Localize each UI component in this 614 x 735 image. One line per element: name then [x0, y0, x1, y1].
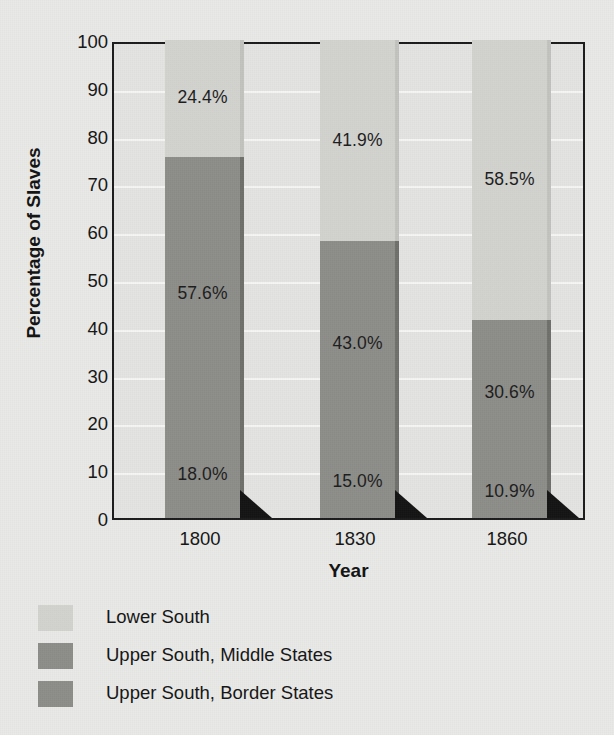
bar-segment-label: 15.0% — [320, 471, 395, 492]
legend-label: Upper South, Border States — [106, 682, 333, 704]
bar-segment: 41.9% — [320, 40, 395, 240]
y-axis-tick-label: 80 — [64, 127, 108, 149]
bar-segment: 43.0% — [320, 241, 395, 447]
bar-segment: 10.9% — [472, 466, 547, 518]
plot-area: 18.0%57.6%24.4%15.0%43.0%41.9%10.9%30.6%… — [114, 44, 583, 518]
plot-frame: 18.0%57.6%24.4%15.0%43.0%41.9%10.9%30.6%… — [112, 42, 585, 520]
bar-side-edge — [395, 241, 399, 447]
y-axis-tick-label: 10 — [64, 461, 108, 483]
bar-side-edge — [395, 40, 399, 240]
y-axis-tick-label: 30 — [64, 366, 108, 388]
y-axis-tick-label: 50 — [64, 270, 108, 292]
bar-side-edge — [547, 40, 551, 320]
bar-1860: 10.9%30.6%58.5% — [472, 40, 547, 518]
bar-base-shadow — [240, 490, 272, 518]
bar-segment-label: 18.0% — [165, 464, 240, 485]
chart-figure: 0102030405060708090100 Percentage of Sla… — [0, 0, 614, 735]
bar-segment: 30.6% — [472, 320, 547, 466]
x-axis-tick-label: 1860 — [432, 528, 582, 550]
bar-segment: 57.6% — [165, 157, 240, 432]
y-axis-title: Percentage of Slaves — [23, 133, 45, 353]
bar-segment-label: 58.5% — [472, 169, 547, 190]
legend-label: Lower South — [106, 606, 210, 628]
y-axis-tick-label: 60 — [64, 222, 108, 244]
y-axis-tick-label: 20 — [64, 413, 108, 435]
bar-segment-label: 30.6% — [472, 382, 547, 403]
bar-segment-label: 43.0% — [320, 333, 395, 354]
legend-swatch — [38, 681, 73, 707]
bar-segment-label: 24.4% — [165, 87, 240, 108]
bar-segment: 58.5% — [472, 40, 547, 320]
y-axis-tick-label: 40 — [64, 318, 108, 340]
bar-side-edge — [240, 40, 244, 157]
bar-1800: 18.0%57.6%24.4% — [165, 40, 240, 518]
bar-segment: 24.4% — [165, 40, 240, 157]
y-axis-tick-label: 0 — [64, 509, 108, 531]
bar-side-edge — [547, 320, 551, 466]
bar-1830: 15.0%43.0%41.9% — [320, 40, 395, 518]
bar-base-shadow — [547, 490, 579, 518]
bar-base-shadow — [395, 490, 427, 518]
bar-side-edge — [240, 157, 244, 432]
x-axis-title: Year — [112, 560, 585, 582]
y-axis-ticks: 0102030405060708090100 — [58, 42, 108, 520]
legend-swatch — [38, 643, 73, 669]
legend-label: Upper South, Middle States — [106, 644, 332, 666]
y-axis-tick-label: 70 — [64, 174, 108, 196]
y-axis-tick-label: 100 — [64, 31, 108, 53]
legend-swatch — [38, 605, 73, 631]
bar-segment: 15.0% — [320, 446, 395, 518]
x-axis-tick-label: 1830 — [280, 528, 430, 550]
x-axis-tick-label: 1800 — [125, 528, 275, 550]
y-axis-tick-label: 90 — [64, 79, 108, 101]
bar-segment-label: 10.9% — [472, 481, 547, 502]
bar-segment-label: 57.6% — [165, 283, 240, 304]
bar-segment: 18.0% — [165, 432, 240, 518]
bar-segment-label: 41.9% — [320, 130, 395, 151]
